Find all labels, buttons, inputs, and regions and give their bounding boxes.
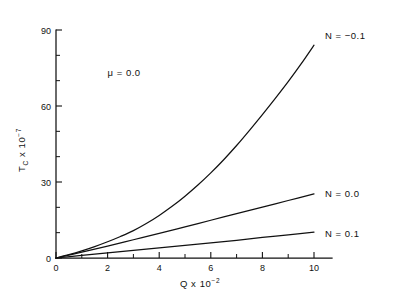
- x-axis-title-exp: −2: [211, 277, 220, 284]
- x-tick-label: 8: [260, 263, 265, 273]
- chart-svg: 0306090 0246810 TC x 10−7 Q x 10−2 N = −…: [0, 0, 396, 303]
- x-tick-label: 6: [208, 263, 213, 273]
- x-axis-title-base: Q x 10: [180, 278, 212, 289]
- x-tick-label: 2: [105, 263, 110, 273]
- series-label-0: N = −0.1: [325, 30, 365, 41]
- y-tick-label: 0: [46, 254, 51, 264]
- y-axis-title-exp: −7: [15, 128, 22, 137]
- series-label-1: N = 0.0: [325, 188, 359, 199]
- chart-annotations: μ = 0.0: [108, 67, 141, 78]
- x-tick-label: 4: [157, 263, 162, 273]
- y-tick-label: 90: [41, 26, 51, 36]
- series-label-2: N = 0.1: [325, 228, 359, 239]
- y-tick-label: 60: [41, 102, 51, 112]
- annotation-0: μ = 0.0: [108, 67, 141, 78]
- x-tick-label: 0: [53, 263, 58, 273]
- y-tick-label: 30: [41, 178, 51, 188]
- chart-figure: 0306090 0246810 TC x 10−7 Q x 10−2 N = −…: [0, 0, 396, 303]
- x-tick-label: 10: [309, 263, 319, 273]
- y-axis-title-mid: x 10: [16, 137, 27, 161]
